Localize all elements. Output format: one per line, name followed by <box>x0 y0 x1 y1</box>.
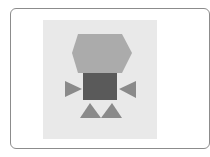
bottom-right-triangle-shape <box>101 103 122 118</box>
left-triangle-shape <box>65 81 82 97</box>
right-triangle-shape <box>119 81 136 98</box>
square-shape <box>83 73 117 100</box>
figure-illustration <box>43 20 157 139</box>
bottom-left-triangle-shape <box>80 103 101 118</box>
hexagon-shape <box>72 34 132 73</box>
image-thumbnail[interactable] <box>43 20 157 139</box>
